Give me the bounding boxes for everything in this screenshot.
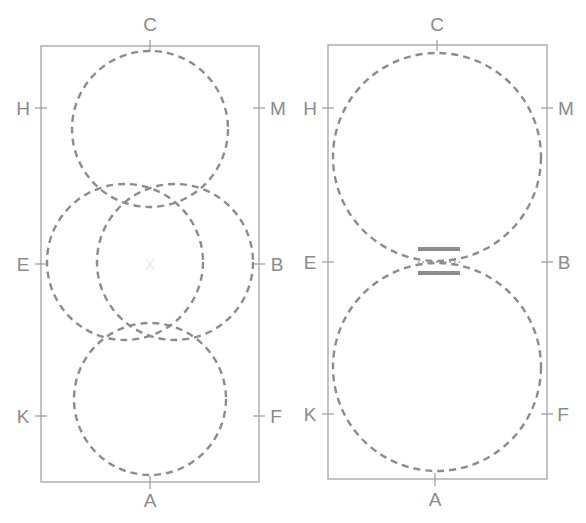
circle-top xyxy=(333,53,541,261)
center-x-mark: x xyxy=(145,252,155,274)
label-h: H xyxy=(16,98,30,119)
circle-mid-left xyxy=(47,184,203,340)
left-panel: x C A H M E B K F xyxy=(16,14,286,511)
right-panel: C A H M E B K F xyxy=(303,14,574,510)
label-h: H xyxy=(303,98,317,119)
label-e: E xyxy=(17,254,30,275)
label-c: C xyxy=(430,14,444,35)
label-c: C xyxy=(143,14,157,35)
diagram-canvas: x C A H M E B K F C A H M E B K xyxy=(0,0,586,523)
label-k: K xyxy=(304,404,317,425)
label-e: E xyxy=(304,252,317,273)
circle-bottom xyxy=(333,263,541,471)
label-f: F xyxy=(270,406,282,427)
label-a: A xyxy=(429,489,442,510)
circle-bottom xyxy=(74,323,226,475)
label-b: B xyxy=(271,254,284,275)
label-f: F xyxy=(557,404,569,425)
circle-mid-right xyxy=(97,184,253,340)
label-m: M xyxy=(270,98,286,119)
circle-top xyxy=(72,51,228,207)
label-a: A xyxy=(144,490,157,511)
label-m: M xyxy=(558,98,574,119)
label-b: B xyxy=(558,252,571,273)
label-k: K xyxy=(17,406,30,427)
